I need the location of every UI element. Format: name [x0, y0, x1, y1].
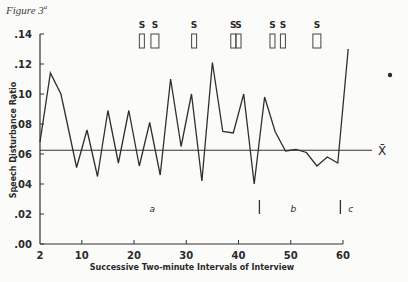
s-marker-label: S	[314, 20, 320, 30]
s-marker-box	[139, 34, 144, 48]
segment-label: b	[291, 204, 297, 214]
segment-labels: abc	[150, 200, 354, 214]
segment-label: c	[348, 204, 353, 214]
s-marker-box	[231, 34, 236, 48]
s-marker-box	[270, 34, 275, 48]
y-tick-label: .14	[14, 29, 32, 40]
x-axis-ticks: 2102030405060	[37, 240, 350, 261]
x-axis-title: Successive Two-minute Intervals of Inter…	[90, 263, 295, 272]
y-tick-label: .12	[14, 59, 32, 70]
series-line	[40, 49, 348, 184]
x-tick-label: 30	[179, 250, 193, 261]
s-marker-box	[151, 34, 159, 48]
dot-annotation	[388, 73, 392, 77]
s-marker-label: S	[269, 20, 275, 30]
x-tick-label: 20	[127, 250, 141, 261]
data-series	[40, 49, 348, 184]
x-tick-label: 40	[232, 250, 246, 261]
y-tick-label: .00	[14, 239, 32, 250]
y-axis-title: Speech Disturbance Ratio	[9, 81, 18, 198]
x-tick-label: 50	[284, 250, 298, 261]
x-tick-label: 2	[37, 250, 44, 261]
s-marker-box	[236, 34, 241, 48]
s-marker-label: S	[235, 20, 241, 30]
s-markers: SSSSSSSS	[139, 20, 321, 48]
s-marker-box	[192, 34, 197, 48]
line-chart: .00.02.04.06.08.10.12.14 2102030405060 X…	[0, 0, 408, 282]
s-marker-label: S	[280, 20, 286, 30]
mean-label: X̄	[378, 144, 386, 158]
s-marker-label: S	[139, 20, 145, 30]
s-marker-label: S	[191, 20, 197, 30]
y-tick-label: .02	[14, 209, 32, 220]
x-tick-label: 10	[75, 250, 89, 261]
s-marker-box	[280, 34, 285, 48]
s-marker-label: S	[152, 20, 158, 30]
segment-label: a	[150, 204, 156, 214]
x-tick-label: 60	[336, 250, 350, 261]
chart-axes	[40, 34, 343, 244]
s-marker-box	[313, 34, 321, 48]
